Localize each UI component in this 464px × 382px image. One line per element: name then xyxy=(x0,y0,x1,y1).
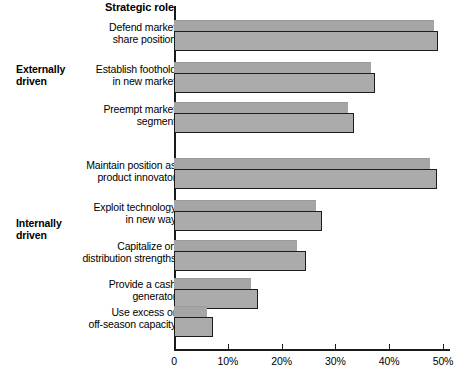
x-tick-10% xyxy=(228,344,229,351)
x-tick-label: 0 xyxy=(171,355,177,367)
x-tick-label: 20% xyxy=(271,355,292,367)
bar-front xyxy=(174,73,375,93)
bar-front xyxy=(174,31,438,51)
x-tick-label: 50% xyxy=(433,355,454,367)
bar-front xyxy=(174,251,306,271)
category-label-capitalize-on-distribution-strengths: Capitalize on distribution strengths xyxy=(46,241,176,264)
category-label-exploit-technology-in-new-way: Exploit technology in new way xyxy=(46,202,176,225)
category-label-provide-a-cash-generator: Provide a cash generator xyxy=(46,279,176,302)
category-label-establish-foothold-in-new-market: Establish foothold in new market xyxy=(46,64,176,87)
category-label-maintain-position-as-product-innovator: Maintain position as product innovator xyxy=(46,160,176,183)
x-tick-label: 10% xyxy=(217,355,238,367)
bar-front xyxy=(174,113,354,133)
bar-front xyxy=(174,211,322,231)
x-axis-line xyxy=(174,349,450,351)
x-tick-50% xyxy=(443,344,444,351)
page-title: Strategic role xyxy=(105,1,174,13)
x-tick-30% xyxy=(335,344,336,351)
x-tick-label: 30% xyxy=(325,355,346,367)
category-label-use-excess-or-off-season-capacity: Use excess or off-season capacity xyxy=(46,307,176,330)
x-tick-label: 40% xyxy=(379,355,400,367)
category-label-preempt-market-segment: Preempt market segment xyxy=(46,104,176,127)
bar-chart: Strategic role Externally driven Interna… xyxy=(0,0,464,382)
x-tick-0 xyxy=(174,344,175,351)
x-tick-20% xyxy=(282,344,283,351)
category-label-defend-market-share-position: Defend market share position xyxy=(46,22,176,45)
bar-front xyxy=(174,169,437,189)
bar-front xyxy=(174,317,213,337)
plot-area: 010%20%30%40%50% xyxy=(174,6,464,350)
x-tick-40% xyxy=(389,344,390,351)
